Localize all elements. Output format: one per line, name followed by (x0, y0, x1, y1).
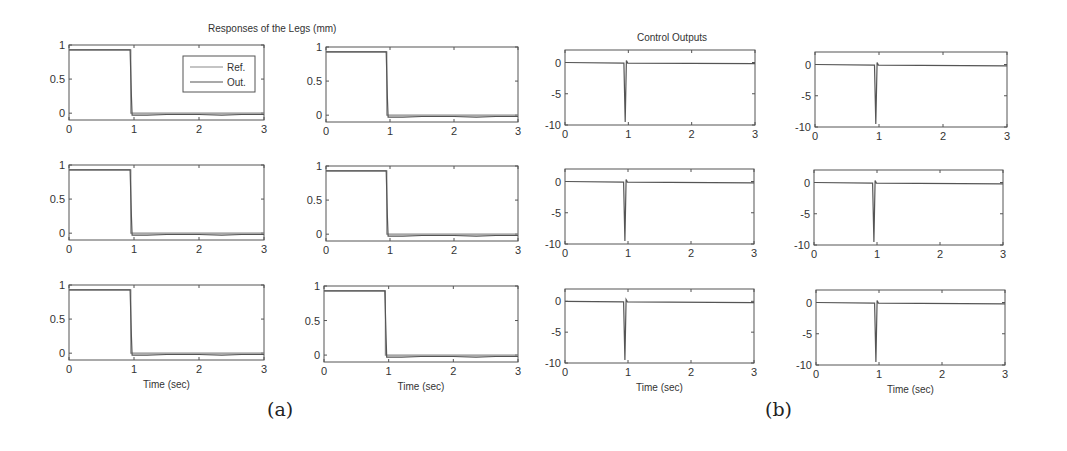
x-tick-label: 2 (196, 243, 202, 255)
x-tick-label: 1 (625, 128, 631, 140)
x-tick-label: 0 (66, 363, 72, 375)
y-tick-label: -10 (545, 357, 561, 369)
y-tick-label: 0.5 (305, 315, 320, 327)
subplot-b-2: 0123-10-50 (795, 52, 1010, 142)
y-tick-label: -5 (551, 88, 561, 100)
y-tick-label: 1 (316, 160, 322, 172)
axes-box (565, 289, 754, 363)
x-tick-label: 2 (688, 366, 694, 378)
y-tick-label: 1 (59, 39, 65, 51)
y-tick-label: -5 (551, 326, 561, 338)
axes-box (326, 166, 518, 241)
axes-box (565, 50, 755, 125)
y-tick-label: 0 (314, 349, 320, 361)
subplot-a-3: 012300.51 (50, 159, 267, 255)
legend-entry: Ref. (227, 62, 245, 73)
axes-box (324, 286, 518, 362)
y-tick-label: 0 (316, 109, 322, 121)
x-tick-label: 0 (562, 128, 568, 140)
y-tick-label: 0.5 (307, 194, 322, 206)
subplot-a-2: 012300.51 (307, 41, 521, 137)
subplot-b-4: 0123-10-50 (794, 170, 1006, 260)
y-tick-label: 0 (555, 57, 561, 69)
y-tick-label: 0 (804, 177, 810, 189)
x-tick-label: 0 (562, 247, 568, 259)
x-tick-label: 2 (196, 363, 202, 375)
axes-box (816, 290, 1005, 365)
y-tick-label: -5 (801, 90, 811, 102)
x-tick-label: 2 (451, 125, 457, 137)
y-tick-label: 1 (316, 41, 322, 53)
axes-box (69, 165, 264, 240)
x-tick-label: 1 (387, 125, 393, 137)
x-tick-label: 0 (811, 248, 817, 260)
caption-a: (a) (267, 398, 293, 420)
x-tick-label: 3 (515, 365, 521, 377)
y-tick-label: 0.5 (307, 75, 322, 87)
y-tick-label: 0.5 (50, 73, 65, 85)
y-tick-label: -10 (794, 239, 810, 251)
x-tick-label: 2 (196, 123, 202, 135)
legend-entry: Out. (227, 77, 246, 88)
x-tick-label: 1 (131, 123, 137, 135)
subplot-a-5: 012300.51Time (sec) (50, 279, 267, 390)
x-tick-label: 2 (688, 247, 694, 259)
y-tick-label: -10 (545, 238, 561, 250)
x-tick-label: 2 (937, 248, 943, 260)
x-tick-label: 1 (386, 365, 392, 377)
x-tick-label: 3 (515, 244, 521, 256)
y-tick-label: 1 (59, 279, 65, 291)
y-tick-label: 0 (555, 176, 561, 188)
y-tick-label: -5 (800, 208, 810, 220)
axes-box (565, 169, 754, 244)
x-tick-label: 1 (625, 366, 631, 378)
x-tick-label: 0 (66, 243, 72, 255)
y-tick-label: 1 (314, 280, 320, 292)
y-tick-label: 0.5 (50, 193, 65, 205)
x-tick-label: 1 (874, 248, 880, 260)
x-tick-label: 2 (940, 130, 946, 142)
x-tick-label: 3 (751, 247, 757, 259)
axes-box (69, 285, 264, 360)
x-axis-label: Time (sec) (143, 379, 190, 390)
x-tick-label: 2 (451, 244, 457, 256)
x-tick-label: 3 (261, 243, 267, 255)
x-tick-label: 2 (939, 368, 945, 380)
x-tick-label: 0 (323, 244, 329, 256)
x-tick-label: 2 (689, 128, 695, 140)
x-tick-label: 3 (261, 123, 267, 135)
y-tick-label: 0 (316, 228, 322, 240)
y-tick-label: -10 (796, 359, 812, 371)
x-tick-label: 3 (261, 363, 267, 375)
x-tick-label: 3 (1002, 368, 1008, 380)
figure: Responses of the Legs (mm) Control Outpu… (0, 0, 1067, 451)
y-tick-label: 0 (59, 107, 65, 119)
x-tick-label: 2 (450, 365, 456, 377)
x-tick-label: 3 (1004, 130, 1010, 142)
x-tick-label: 0 (321, 365, 327, 377)
x-tick-label: 0 (562, 366, 568, 378)
x-tick-label: 1 (131, 243, 137, 255)
subplot-a-1: 012300.51Ref.Out. (50, 39, 267, 135)
y-tick-label: 1 (59, 159, 65, 171)
x-tick-label: 1 (131, 363, 137, 375)
y-tick-label: -10 (795, 121, 811, 133)
axes-box (814, 170, 1003, 245)
y-tick-label: 0 (59, 227, 65, 239)
x-axis-label: Time (sec) (887, 384, 934, 395)
x-tick-label: 3 (1000, 248, 1006, 260)
x-tick-label: 1 (876, 368, 882, 380)
x-tick-label: 1 (387, 244, 393, 256)
y-tick-label: 0 (555, 295, 561, 307)
y-tick-label: -5 (802, 328, 812, 340)
x-tick-label: 3 (515, 125, 521, 137)
axes-box (326, 47, 518, 122)
subplot-grid: 012300.51Ref.Out.012300.51012300.5101230… (0, 0, 1067, 451)
x-tick-label: 0 (66, 123, 72, 135)
y-tick-label: 0.5 (50, 313, 65, 325)
x-tick-label: 1 (876, 130, 882, 142)
x-tick-label: 1 (625, 247, 631, 259)
x-tick-label: 3 (752, 128, 758, 140)
subplot-b-3: 0123-10-50 (545, 169, 757, 259)
subplot-b-1: 0123-10-50 (545, 50, 758, 140)
